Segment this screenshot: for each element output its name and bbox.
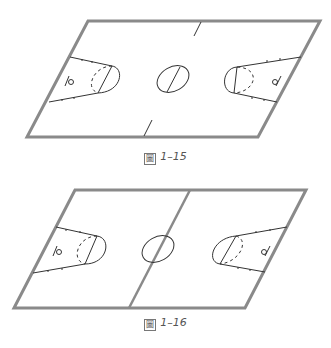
center-circle-diameter [167, 67, 180, 92]
figure-caption: 圖1–16 [0, 316, 331, 331]
left-key [49, 57, 120, 102]
figure-caption: 圖1–15 [0, 150, 331, 165]
caption-number: 1–15 [160, 150, 187, 163]
figure-1-15: 圖1–15 [0, 0, 331, 174]
court-diagram-1 [0, 0, 331, 174]
figure-1-16: 圖1–16 [0, 174, 331, 348]
center-circle [152, 60, 193, 98]
caption-number: 1–16 [160, 316, 187, 329]
caption-glyph: 圖 [144, 319, 156, 331]
center-line [129, 190, 190, 308]
left-hoop [57, 250, 62, 255]
left-hoop [69, 80, 74, 85]
center-circle [137, 230, 178, 268]
right-hoop [262, 250, 267, 255]
caption-glyph: 圖 [144, 153, 156, 165]
center-tick-bottom [144, 120, 152, 136]
right-hoop [273, 80, 278, 85]
center-tick-top [194, 22, 201, 36]
